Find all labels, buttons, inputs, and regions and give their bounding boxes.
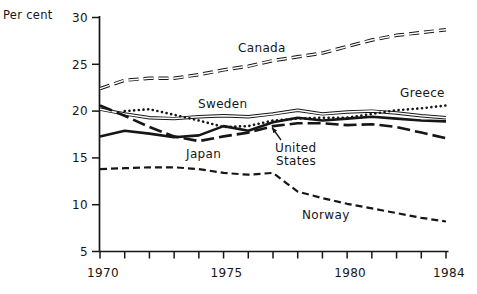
y-tick-label-20: 20 [72,104,88,118]
canada-line [100,30,446,89]
x-tick-label-1975: 1975 [211,266,243,280]
y-tick-label-25: 25 [72,58,88,72]
norway-line [100,167,446,221]
united-states-label: United [275,141,317,155]
united-states-label-line2: States [276,154,316,168]
x-tick-label-1984: 1984 [433,266,465,280]
line-chart: Per cent 302520151051970197519801984Cana… [0,0,477,294]
x-tick-label-1980: 1980 [334,266,366,280]
y-tick-label-5: 5 [80,245,88,259]
greece-label: Greece [400,86,445,100]
norway-label: Norway [302,208,350,222]
sweden-label: Sweden [198,97,248,111]
x-tick-label-1970: 1970 [87,266,119,280]
chart-canvas: 302520151051970197519801984CanadaSwedenG… [0,0,477,294]
y-tick-label-30: 30 [72,11,88,25]
greece-line [125,106,446,128]
canada-label: Canada [238,41,286,55]
y-tick-label-10: 10 [72,198,88,212]
y-tick-label-15: 15 [72,151,88,165]
japan-label: Japan [185,147,221,161]
